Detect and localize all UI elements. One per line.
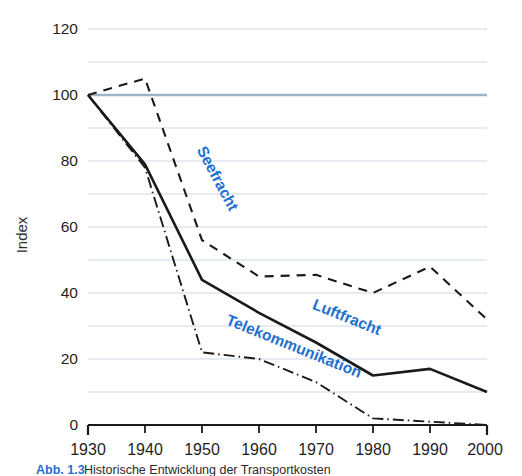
y-tick-0: 0 [69, 416, 78, 433]
y-tick-100: 100 [52, 86, 78, 103]
y-axis-title: Index [13, 216, 30, 253]
x-tick-label-1990: 1990 [412, 441, 448, 458]
x-tick-label-1980: 1980 [355, 441, 391, 458]
figure-caption: Abb. 1.3 Historische Entwicklung der Tra… [36, 463, 331, 476]
series-line-seefracht [88, 79, 487, 320]
caption-body: Historische Entwicklung der Transportkos… [84, 463, 331, 476]
y-tick-120: 120 [52, 20, 78, 37]
x-tick-label-1970: 1970 [298, 441, 334, 458]
y-tick-60: 60 [61, 218, 79, 235]
x-tick-label-1940: 1940 [127, 441, 163, 458]
y-tick-80: 80 [61, 152, 79, 169]
caption-label: Abb. 1.3 [36, 463, 85, 476]
y-axis-tick-labels: 120 100 80 60 40 20 0 [52, 20, 78, 433]
x-axis-tick-labels: 1930 1940 1950 1960 1970 1980 1990 2000 [70, 441, 503, 458]
x-tick-label-1930: 1930 [70, 441, 106, 458]
series-label-seefracht: Seefracht [194, 143, 242, 213]
series-label-luftfracht: Luftfracht [310, 295, 383, 338]
x-tick-label-1950: 1950 [184, 441, 220, 458]
y-tick-20: 20 [61, 350, 79, 367]
series-annotations: Seefracht Luftfracht Telekommunikation [194, 143, 384, 381]
data-series [88, 79, 487, 426]
x-tick-label-1960: 1960 [241, 441, 277, 458]
transport-cost-index-chart: 120 100 80 60 40 20 0 Index 1930 1940 19… [0, 0, 522, 476]
x-axis [88, 425, 487, 435]
y-tick-40: 40 [61, 284, 79, 301]
x-tick-label-2000: 2000 [467, 441, 503, 458]
